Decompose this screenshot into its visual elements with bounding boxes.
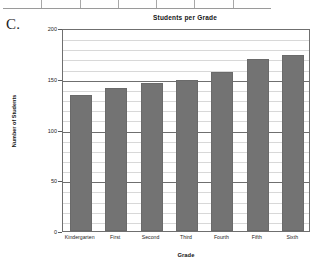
y-tick-mark xyxy=(58,232,62,233)
gridline-minor xyxy=(63,71,309,72)
gridline-minor xyxy=(63,60,309,61)
x-tick-label: Fifth xyxy=(252,234,262,240)
y-tick-label: 100 xyxy=(48,128,57,134)
bar xyxy=(176,80,198,231)
y-tick-label: 50 xyxy=(51,178,57,184)
y-axis: Number of Students 050100150200 xyxy=(0,0,62,273)
gridline-minor xyxy=(63,50,309,51)
bar xyxy=(141,83,163,231)
y-axis-title: Number of Students xyxy=(11,71,17,171)
bar xyxy=(105,88,127,231)
x-tick-label: Fourth xyxy=(214,234,229,240)
y-tick-label: 200 xyxy=(48,26,57,32)
bar xyxy=(70,95,92,231)
x-tick-label: Kindergarten xyxy=(65,234,95,240)
bar xyxy=(282,55,304,231)
x-axis-title: Grade xyxy=(62,252,310,258)
x-tick-label: First xyxy=(110,234,120,240)
x-tick-label: Sixth xyxy=(287,234,299,240)
bar xyxy=(247,59,269,231)
chart-title: Students per Grade xyxy=(60,14,310,21)
x-tick-label: Second xyxy=(142,234,160,240)
bar-chart: Students per Grade Number of Students 05… xyxy=(0,0,317,273)
y-tick-label: 0 xyxy=(54,229,57,235)
x-tick-label: Third xyxy=(180,234,192,240)
gridline-minor xyxy=(63,40,309,41)
y-tick-label: 150 xyxy=(48,77,57,83)
bar xyxy=(211,72,233,231)
plot-area xyxy=(62,29,310,232)
